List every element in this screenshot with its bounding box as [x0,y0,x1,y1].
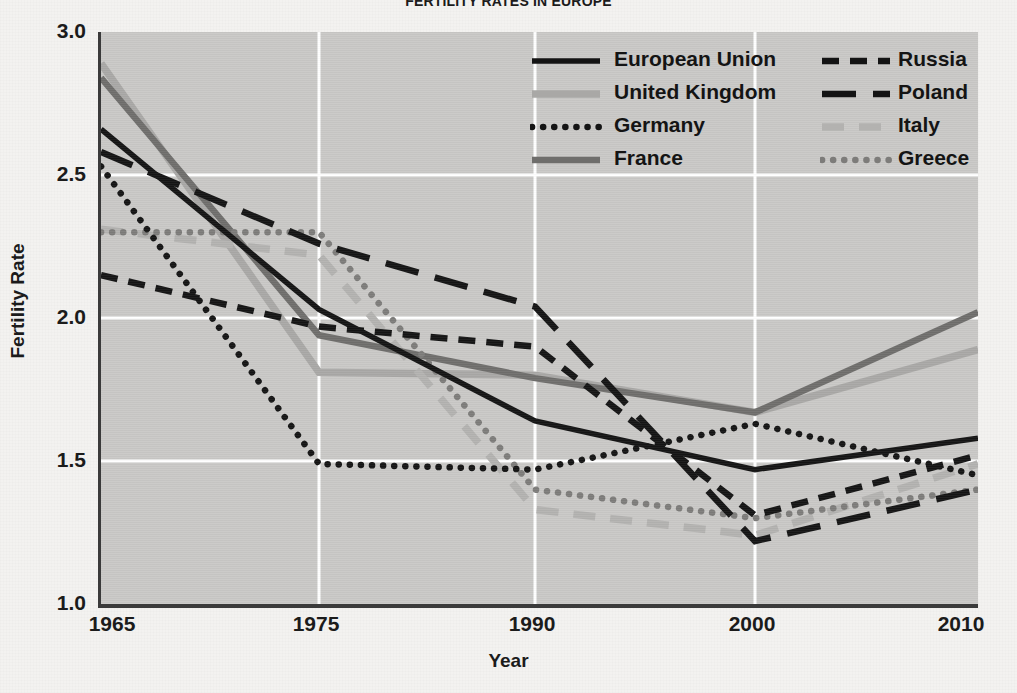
legend-swatch-united-kingdom [530,88,602,95]
chart-title: FERTILITY RATES IN EUROPE [0,0,1017,9]
legend-label-italy: Italy [898,114,970,135]
y-tick-label: 1.0 [0,591,86,615]
legend-swatch-italy [820,121,892,128]
legend-label-france: France [614,147,814,168]
legend-swatch-russia [820,55,892,62]
x-tick-label: 2010 [938,612,985,636]
legend-label-russia: Russia [898,48,970,69]
legend-label-germany: Germany [614,114,814,135]
chart-legend: European UnionRussiaUnited KingdomPoland… [530,42,970,174]
x-tick-label: 2000 [729,612,776,636]
x-tick-label: 1965 [89,612,136,636]
legend-label-poland: Poland [898,81,970,102]
legend-swatch-european-union [530,55,602,62]
legend-label-greece: Greece [898,147,970,168]
series-line-european-union [101,129,978,469]
legend-swatch-france [530,154,602,161]
y-tick-label: 1.5 [0,448,86,472]
y-tick-label: 3.0 [0,19,86,43]
y-tick-label: 2.5 [0,162,86,186]
legend-swatch-poland [820,88,892,95]
x-tick-label: 1990 [509,612,556,636]
legend-swatch-germany [530,121,602,128]
y-axis-title: Fertility Rate [7,221,29,381]
legend-label-united-kingdom: United Kingdom [614,81,814,102]
x-tick-label: 1975 [293,612,340,636]
chart-page: FERTILITY RATES IN EUROPE 3.02.52.01.51.… [0,0,1017,693]
legend-swatch-greece [820,154,892,161]
series-line-germany [101,166,978,475]
x-axis-title: Year [0,650,1017,672]
legend-label-european-union: European Union [614,48,814,69]
